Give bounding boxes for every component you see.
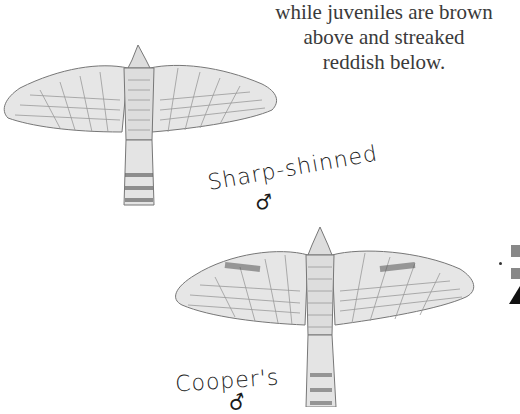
edge-square-icon bbox=[511, 245, 520, 257]
edge-square-icon bbox=[511, 268, 520, 279]
edge-dot-icon bbox=[499, 262, 502, 265]
caption-line-1: while juveniles are brown bbox=[244, 0, 520, 25]
edge-triangle-icon bbox=[509, 286, 520, 304]
caption-line-3: reddish below. bbox=[244, 50, 520, 75]
caption-line-2: above and streaked bbox=[244, 25, 520, 50]
